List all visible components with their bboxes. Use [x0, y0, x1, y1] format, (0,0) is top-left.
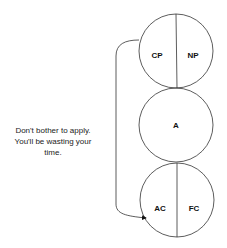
label-cp: CP: [151, 51, 163, 60]
label-a: A: [173, 121, 179, 130]
bottom-circle: AC FC: [140, 163, 214, 237]
label-fc: FC: [189, 204, 200, 213]
top-circle: CP NP: [139, 14, 213, 88]
top-divider: [176, 14, 177, 88]
label-ac: AC: [154, 204, 166, 213]
bracket-arrow: [116, 40, 146, 218]
middle-circle: A: [139, 88, 213, 162]
label-np: NP: [187, 51, 199, 60]
diagram-canvas: CP NP A AC FC: [0, 0, 227, 248]
